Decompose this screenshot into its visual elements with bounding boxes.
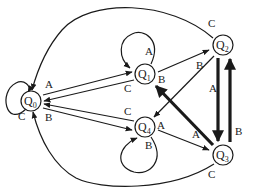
edge-label-q1-q0: C	[124, 82, 131, 94]
edge-q2-q0	[32, 8, 213, 90]
edge-q4-q0	[44, 104, 134, 121]
edge-label-q2-q4: B	[196, 59, 203, 71]
edge-label-q3-q0: C	[208, 168, 215, 180]
edge-label-q1-q1: A	[145, 45, 153, 57]
edge-label-q0-q1: A	[45, 78, 53, 90]
edge-q2-q4	[154, 56, 214, 117]
edge-label-q2-q0: C	[208, 17, 215, 29]
state-diagram: Q0 Q1 Q2 Q3 Q4 C A B C A B C B A B A C C…	[0, 0, 255, 196]
edge-label-q4-q4: B	[145, 139, 152, 151]
edge-q0-q4	[43, 108, 132, 130]
edge-label-q1-q2: B	[158, 73, 165, 85]
edge-label-q4-q3: A	[157, 119, 165, 131]
edge-q3-q1	[156, 86, 213, 145]
edge-label-q3-q1: A	[192, 128, 200, 140]
edge-label-q3-q2: B	[235, 125, 242, 137]
edge-label-q2-q3: A	[209, 82, 217, 94]
edge-label-q0-q4: B	[45, 111, 52, 123]
edge-label-q0-q0: C	[18, 110, 25, 122]
edge-label-q4-q0: C	[124, 105, 131, 117]
